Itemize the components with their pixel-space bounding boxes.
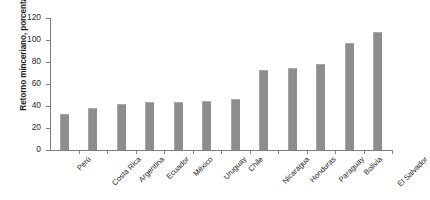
x-tick-label-text: Honduras (308, 154, 338, 184)
x-tick-label-text: Ecuador (164, 154, 191, 181)
x-tick-mark (278, 150, 279, 154)
y-tick-mark (46, 106, 50, 107)
y-tick-label: 0 (36, 144, 41, 154)
x-tick-mark (364, 150, 365, 154)
bar (88, 108, 97, 150)
y-tick-label: 40 (32, 100, 41, 110)
y-tick-mark (46, 84, 50, 85)
x-tick-mark (164, 150, 165, 154)
x-tick-mark (107, 150, 108, 154)
bar (231, 99, 240, 150)
x-tick-label-text: Nicaragua (280, 154, 312, 186)
bar (145, 102, 154, 150)
x-tick-label: Uruguay (221, 154, 248, 181)
x-tick-label-text: Perú (75, 154, 93, 172)
y-tick-mark (46, 62, 50, 63)
y-tick-label: 80 (32, 56, 41, 66)
y-tick-mark (46, 128, 50, 129)
y-tick-label: 100 (27, 34, 41, 44)
bar (117, 104, 126, 150)
bar (60, 114, 69, 150)
x-tick-label: Costa Rica (110, 154, 143, 187)
y-tick-mark (46, 150, 50, 151)
x-tick-label-text: Costa Rica (110, 154, 143, 187)
x-tick-label-text: Uruguay (221, 154, 248, 181)
x-tick-label-text: Bolivia (362, 154, 385, 177)
x-tick-label: El Salvador (395, 154, 430, 189)
plot-area: 020406080100120 PerúCosta RicaArgentinaE… (50, 18, 392, 150)
y-tick-label: 20 (32, 122, 41, 132)
x-tick-label: Ecuador (164, 154, 191, 181)
y-axis-line (50, 18, 51, 150)
x-tick-mark (193, 150, 194, 154)
y-tick-mark (46, 18, 50, 19)
y-tick-label: 60 (32, 78, 41, 88)
y-tick-label: 120 (27, 12, 41, 22)
x-tick-label: México (192, 154, 216, 178)
bar (316, 64, 325, 150)
bar (259, 70, 268, 150)
bar (345, 43, 354, 150)
x-tick-mark (335, 150, 336, 154)
bar (174, 102, 183, 150)
x-tick-mark (250, 150, 251, 154)
x-tick-label: Perú (75, 154, 93, 172)
bar (373, 32, 382, 150)
x-tick-label: Nicaragua (280, 154, 312, 186)
x-tick-label: Chile (247, 154, 266, 173)
bar (288, 68, 297, 151)
x-tick-mark (221, 150, 222, 154)
x-tick-label-text: México (192, 154, 216, 178)
bar (202, 101, 211, 151)
x-tick-mark (307, 150, 308, 154)
x-tick-mark (392, 150, 393, 154)
y-tick-mark (46, 40, 50, 41)
x-tick-label: Bolivia (362, 154, 385, 177)
x-tick-label-text: El Salvador (395, 154, 430, 189)
x-tick-label-text: Chile (247, 154, 266, 173)
x-tick-mark (79, 150, 80, 154)
x-tick-label: Honduras (308, 154, 338, 184)
